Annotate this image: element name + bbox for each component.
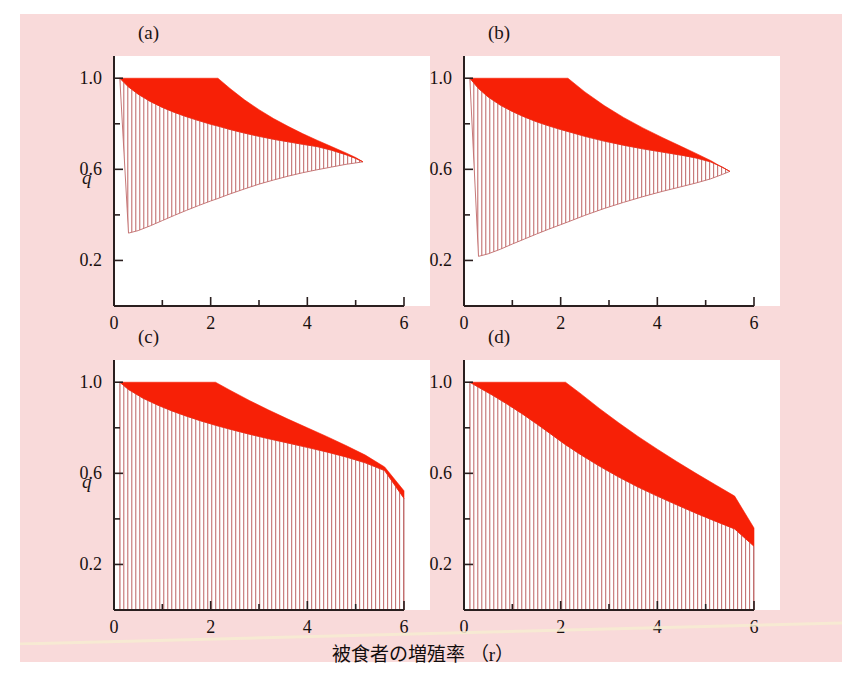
y-tick-label: 0.6	[430, 463, 453, 483]
panel-a-y-axis-label: q	[82, 167, 92, 189]
y-tick-label: 0.2	[80, 554, 103, 574]
x-tick-label: 4	[653, 617, 662, 637]
y-tick-label: 0.2	[430, 250, 453, 270]
x-tick-label: 0	[460, 617, 469, 637]
panel-c-y-axis-label: q	[82, 471, 92, 493]
panel-b-label: (b)	[488, 22, 510, 44]
panel-b-plot: 02460.20.61.0	[370, 14, 781, 338]
panel-a-label: (a)	[138, 22, 159, 44]
x-axis-label: 被食者の増殖率 （r）	[332, 639, 514, 666]
figure-root: (a) q 02460.20.61.0 (b) 02460.20.61.0 (c…	[0, 0, 862, 681]
x-tick-label: 4	[303, 617, 312, 637]
y-tick-label: 0.2	[430, 554, 453, 574]
y-tick-label: 0.6	[430, 159, 453, 179]
panel-d-plot: 02460.20.61.0	[370, 318, 781, 642]
x-tick-label: 6	[750, 617, 759, 637]
panel-b: (b) 02460.20.61.0	[370, 14, 781, 338]
panel-d: (d) 02460.20.61.0	[370, 318, 781, 642]
y-tick-label: 1.0	[430, 68, 453, 88]
y-tick-label: 1.0	[430, 372, 453, 392]
x-tick-label: 2	[206, 617, 215, 637]
y-tick-label: 1.0	[80, 372, 103, 392]
y-tick-label: 1.0	[80, 68, 103, 88]
x-tick-label: 2	[556, 617, 565, 637]
panel-c-label: (c)	[138, 326, 159, 348]
panel-d-label: (d)	[488, 326, 510, 348]
x-tick-label: 0	[110, 617, 119, 637]
y-tick-label: 0.2	[80, 250, 103, 270]
